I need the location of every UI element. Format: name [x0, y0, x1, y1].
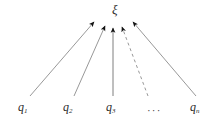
ellipsis-label: ···	[147, 105, 162, 116]
arrow-q2-to-xi	[74, 26, 105, 96]
source-node-label-q2: q2	[63, 101, 72, 115]
arrow-q1-to-xi	[30, 22, 94, 96]
q3-subscript: 3	[112, 107, 115, 115]
source-node-label-q3: q3	[106, 101, 115, 115]
arrow-qn-to-xi	[133, 22, 196, 96]
source-node-label-q1: q1	[18, 101, 27, 115]
q2-subscript: 2	[69, 107, 72, 115]
qn-subscript: n	[196, 107, 199, 115]
target-node-label-xi: ξ	[112, 3, 118, 16]
xi-symbol: ξ	[112, 2, 118, 17]
q1-subscript: 1	[24, 107, 27, 115]
arrow-group	[30, 22, 196, 96]
figure-container: ξ q1 q2 q3 ··· qn	[0, 0, 216, 122]
arrow-dashed-to-xi	[122, 27, 148, 96]
source-node-label-qn: qn	[190, 101, 199, 115]
